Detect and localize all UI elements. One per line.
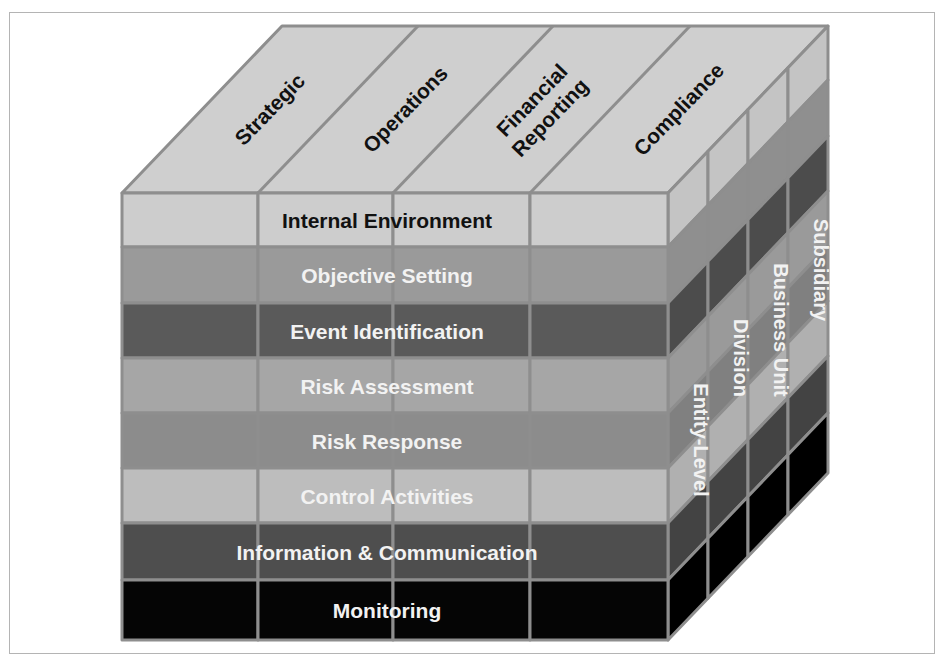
component-row-internal-environment: Internal Environment bbox=[122, 193, 668, 247]
front-cell bbox=[530, 358, 668, 413]
front-cell bbox=[530, 303, 668, 358]
front-cell bbox=[530, 468, 668, 523]
component-label: Control Activities bbox=[300, 485, 473, 508]
component-row-information-communication: Information & Communication bbox=[122, 523, 668, 580]
front-cell bbox=[122, 580, 258, 640]
component-row-risk-response: Risk Response bbox=[122, 413, 668, 468]
component-label: Objective Setting bbox=[301, 264, 473, 287]
component-label: Information & Communication bbox=[237, 541, 538, 564]
component-row-objective-setting: Objective Setting bbox=[122, 247, 668, 303]
front-cell bbox=[122, 193, 258, 247]
component-row-monitoring: Monitoring bbox=[122, 580, 668, 640]
front-cell bbox=[530, 580, 668, 640]
component-row-control-activities: Control Activities bbox=[122, 468, 668, 523]
front-cell bbox=[122, 303, 258, 358]
component-label: Monitoring bbox=[333, 599, 441, 622]
front-cell bbox=[530, 247, 668, 303]
component-label: Internal Environment bbox=[282, 209, 492, 232]
component-row-risk-assessment: Risk Assessment bbox=[122, 358, 668, 413]
front-cell bbox=[530, 193, 668, 247]
front-cell bbox=[122, 413, 258, 468]
front-cell bbox=[122, 358, 258, 413]
component-label: Event Identification bbox=[290, 320, 484, 343]
front-cell bbox=[122, 247, 258, 303]
unit-label-division: Division bbox=[730, 319, 752, 397]
component-label: Risk Response bbox=[312, 430, 463, 453]
component-row-event-identification: Event Identification bbox=[122, 303, 668, 358]
front-cell bbox=[530, 523, 668, 580]
component-label: Risk Assessment bbox=[300, 375, 473, 398]
unit-label-subsidiary: Subsidiary bbox=[810, 219, 832, 322]
front-cell bbox=[122, 468, 258, 523]
unit-label-business-unit: Business Unit bbox=[770, 263, 792, 397]
front-cell bbox=[530, 413, 668, 468]
front-face: Internal EnvironmentObjective SettingEve… bbox=[122, 193, 668, 640]
unit-label-entity-level: Entity-Level bbox=[690, 383, 712, 496]
coso-cube-diagram: StrategicOperationsFinancialReportingCom… bbox=[0, 0, 944, 663]
